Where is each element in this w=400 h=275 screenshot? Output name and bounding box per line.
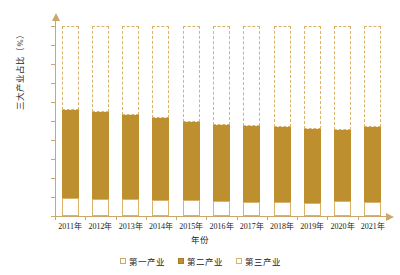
dashed-square-icon — [236, 258, 242, 264]
bar-segment-third-industry[interactable] — [152, 26, 169, 118]
bar-group[interactable] — [304, 26, 321, 216]
bar-segment-first-industry[interactable] — [62, 198, 79, 216]
bar-segment-second-industry[interactable] — [243, 126, 260, 202]
bar-segment-first-industry[interactable] — [334, 201, 351, 216]
x-tick-label: 2015年 — [175, 220, 207, 231]
bar-segment-third-industry[interactable] — [213, 26, 230, 125]
bar-segment-third-industry[interactable] — [274, 26, 291, 127]
bar-group[interactable] — [62, 26, 79, 216]
bar-group[interactable] — [183, 26, 200, 216]
x-tick-label: 2013年 — [115, 220, 147, 231]
bar-group[interactable] — [334, 26, 351, 216]
legend-item[interactable]: 第二产业 — [178, 255, 223, 267]
bar-segment-third-industry[interactable] — [334, 26, 351, 130]
bar-segment-second-industry[interactable] — [213, 125, 230, 200]
x-tick-label: 2012年 — [84, 220, 116, 231]
hollow-square-icon — [120, 258, 126, 264]
bar-segment-second-industry[interactable] — [364, 127, 381, 202]
bar-segment-first-industry[interactable] — [122, 199, 139, 216]
bar-segment-first-industry[interactable] — [274, 202, 291, 216]
bar-group[interactable] — [274, 26, 291, 216]
legend-item[interactable]: 第一产业 — [120, 255, 165, 267]
x-tick-label: 2011年 — [54, 220, 86, 231]
bar-segment-third-industry[interactable] — [304, 26, 321, 129]
bar-segment-third-industry[interactable] — [243, 26, 260, 126]
bar-segment-first-industry[interactable] — [243, 202, 260, 216]
bar-segment-first-industry[interactable] — [213, 201, 230, 216]
bar-group[interactable] — [92, 26, 109, 216]
stacked-bar-chart: 三大产业占比（%） 100.0090.0080.0070.0060.0050.0… — [0, 0, 400, 275]
bar-segment-third-industry[interactable] — [364, 26, 381, 127]
chart-legend: 第一产业第二产业第三产业 — [0, 255, 400, 267]
x-tick-label: 2020年 — [327, 220, 359, 231]
bar-segment-second-industry[interactable] — [122, 115, 139, 199]
x-tick-label: 2017年 — [236, 220, 268, 231]
bar-group[interactable] — [243, 26, 260, 216]
bar-segment-second-industry[interactable] — [92, 112, 109, 199]
bar-segment-second-industry[interactable] — [334, 130, 351, 202]
bar-segment-third-industry[interactable] — [183, 26, 200, 122]
x-tick-label: 2019年 — [296, 220, 328, 231]
bar-segment-second-industry[interactable] — [62, 110, 79, 198]
x-tick-label: 2018年 — [266, 220, 298, 231]
bar-group[interactable] — [364, 26, 381, 216]
bar-segment-third-industry[interactable] — [122, 26, 139, 115]
bar-group[interactable] — [213, 26, 230, 216]
filled-square-icon — [178, 258, 184, 264]
bar-segment-first-industry[interactable] — [364, 202, 381, 216]
legend-label: 第三产业 — [245, 255, 281, 267]
bar-segment-third-industry[interactable] — [92, 26, 109, 112]
y-axis-arrow-icon — [52, 13, 60, 21]
bar-segment-second-industry[interactable] — [304, 129, 321, 202]
x-axis-title: 年份 — [0, 233, 400, 245]
bar-segment-first-industry[interactable] — [152, 200, 169, 216]
y-axis-title: 三大产业占比（%） — [13, 5, 25, 135]
x-tick-label: 2014年 — [145, 220, 177, 231]
legend-label: 第一产业 — [129, 255, 165, 267]
bar-segment-first-industry[interactable] — [304, 203, 321, 216]
bar-group[interactable] — [122, 26, 139, 216]
x-axis-line — [55, 216, 386, 217]
bar-segment-second-industry[interactable] — [274, 127, 291, 202]
bar-segment-first-industry[interactable] — [92, 199, 109, 216]
bar-segment-first-industry[interactable] — [183, 200, 200, 216]
bar-segment-second-industry[interactable] — [183, 122, 200, 200]
x-tick-label: 2021年 — [357, 220, 389, 231]
bar-segment-third-industry[interactable] — [62, 26, 79, 110]
legend-label: 第二产业 — [187, 255, 223, 267]
legend-item[interactable]: 第三产业 — [236, 255, 281, 267]
bar-segment-second-industry[interactable] — [152, 118, 169, 200]
plot-area — [55, 26, 388, 216]
bar-group[interactable] — [152, 26, 169, 216]
x-tick-label: 2016年 — [206, 220, 238, 231]
